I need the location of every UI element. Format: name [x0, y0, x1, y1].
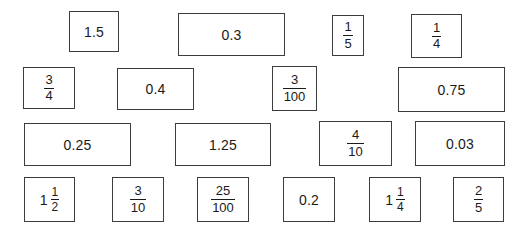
fraction-value: 15 — [343, 20, 352, 50]
fraction-denominator: 100 — [211, 199, 235, 215]
decimal-value: 0.3 — [221, 28, 241, 42]
value-card[interactable]: 310 — [112, 177, 164, 222]
fraction-denominator: 10 — [347, 143, 363, 159]
value-card[interactable]: 0.4 — [117, 68, 194, 110]
decimal-value: 0.2 — [299, 193, 319, 207]
value-card[interactable]: 25100 — [197, 177, 249, 222]
value-card[interactable]: 0.75 — [398, 67, 505, 112]
value-card[interactable]: 1.5 — [69, 11, 119, 52]
decimal-value: 1.5 — [84, 25, 104, 39]
fraction-denominator: 4 — [44, 88, 53, 104]
decimal-value: 0.25 — [63, 138, 91, 152]
value-card[interactable]: 1.25 — [175, 123, 271, 166]
fraction-denominator: 5 — [343, 35, 352, 51]
mixed-number-whole-part: 1 — [385, 193, 393, 207]
fraction-denominator: 2 — [51, 199, 60, 213]
mixed-number-value: 114 — [385, 186, 404, 214]
fraction-numerator: 1 — [343, 20, 352, 35]
fraction-value: 25100 — [211, 184, 235, 214]
value-card[interactable]: 0.25 — [24, 123, 131, 166]
fraction-numerator: 3 — [290, 73, 299, 88]
decimal-value: 0.4 — [145, 82, 165, 96]
fraction-numerator: 3 — [44, 73, 53, 88]
fraction-denominator: 4 — [432, 36, 441, 52]
value-card[interactable]: 25 — [453, 177, 504, 222]
fraction-value: 25 — [474, 184, 483, 214]
fraction-value: 14 — [396, 186, 405, 214]
fraction-numerator: 4 — [351, 128, 360, 143]
value-card[interactable]: 0.03 — [415, 121, 505, 166]
fraction-denominator: 100 — [283, 88, 307, 104]
value-card[interactable]: 34 — [23, 67, 75, 109]
mixed-number-value: 112 — [40, 186, 59, 214]
fraction-value: 14 — [432, 21, 441, 51]
fraction-value: 3100 — [283, 73, 307, 103]
value-card[interactable]: 114 — [369, 177, 421, 222]
value-card[interactable]: 0.2 — [283, 177, 335, 222]
mixed-number-whole-part: 1 — [40, 193, 48, 207]
fraction-numerator: 25 — [215, 184, 231, 199]
value-card[interactable]: 112 — [24, 177, 75, 222]
fraction-numerator: 1 — [432, 21, 441, 36]
fraction-numerator: 2 — [474, 184, 483, 199]
fraction-value: 310 — [130, 184, 146, 214]
fraction-denominator: 5 — [474, 199, 483, 215]
fraction-numerator: 3 — [133, 184, 142, 199]
value-card[interactable]: 3100 — [272, 66, 317, 111]
decimal-value: 0.03 — [446, 137, 474, 151]
decimal-value: 0.75 — [437, 83, 465, 97]
value-card[interactable]: 410 — [319, 121, 392, 166]
fraction-numerator: 1 — [396, 186, 405, 199]
fraction-value: 410 — [347, 128, 363, 158]
fraction-numerator: 1 — [51, 186, 60, 199]
value-card[interactable]: 0.3 — [178, 13, 285, 56]
fraction-denominator: 10 — [130, 199, 146, 215]
fraction-value: 34 — [44, 73, 53, 103]
fraction-denominator: 4 — [396, 199, 405, 213]
value-card-board: 1.50.31514340.431000.750.251.254100.0311… — [0, 0, 529, 236]
value-card[interactable]: 15 — [332, 15, 364, 56]
value-card[interactable]: 14 — [411, 14, 462, 58]
fraction-value: 12 — [51, 186, 60, 214]
decimal-value: 1.25 — [209, 138, 237, 152]
